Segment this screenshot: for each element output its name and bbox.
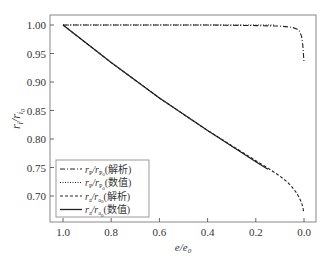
x-tick-label: 0.2 xyxy=(249,226,263,238)
y-tick-label: 0.95 xyxy=(27,48,47,60)
y-tick-label: 0.75 xyxy=(27,162,47,174)
y-axis-label: ri/ri0 xyxy=(9,109,26,129)
x-axis-label: e/e0 xyxy=(175,241,192,255)
x-tick-label: 0.8 xyxy=(104,226,118,238)
series-line xyxy=(63,25,268,169)
series-line xyxy=(63,25,304,62)
y-tick-label: 0.85 xyxy=(27,105,47,117)
svg-text:e/e0: e/e0 xyxy=(175,241,192,255)
y-tick-label: 0.70 xyxy=(27,190,47,202)
y-tick-label: 0.90 xyxy=(27,76,47,88)
x-tick-label: 0.6 xyxy=(153,226,167,238)
y-tick-label: 1.00 xyxy=(27,19,47,31)
x-tick-label: 1.0 xyxy=(56,226,70,238)
x-tick-label: 0.4 xyxy=(201,226,215,238)
svg-text:ri/ri0: ri/ri0 xyxy=(9,109,26,129)
x-tick-label: 0.0 xyxy=(297,226,311,238)
x-axis-ticks: 1.00.80.60.40.20.0 xyxy=(56,218,311,238)
legend: rP/rP0(解析)rP/rP0(数值)ra/ra0(解析)ra/ra0(数值) xyxy=(56,160,149,218)
chart: 1.000.950.900.850.800.750.70 1.00.80.60.… xyxy=(0,0,331,259)
chart-svg: 1.000.950.900.850.800.750.70 1.00.80.60.… xyxy=(0,0,331,259)
y-tick-label: 0.80 xyxy=(27,133,47,145)
